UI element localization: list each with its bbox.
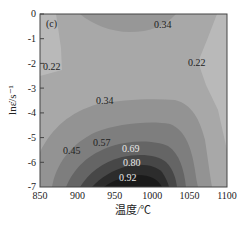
x-tick-label: 900 bbox=[70, 190, 85, 201]
x-axis-label: 温度/℃ bbox=[115, 203, 151, 216]
contour-label: 0.92 bbox=[119, 172, 137, 183]
contour-label: 0.34 bbox=[154, 19, 172, 30]
contour-label: 0.57 bbox=[93, 137, 111, 148]
y-tick-label: -5 bbox=[28, 132, 36, 143]
contour-chart: 0 -1 -2 -3 -4 -5 -6 -7 850 900 950 1000 … bbox=[0, 0, 251, 227]
contour-label: 0.69 bbox=[122, 143, 140, 154]
x-tick-label: 950 bbox=[107, 190, 122, 201]
y-tick-label: -2 bbox=[28, 58, 36, 69]
contour-label: 0.34 bbox=[96, 95, 114, 106]
y-tick-label: -3 bbox=[28, 83, 36, 94]
y-tick-label: 0 bbox=[31, 8, 36, 19]
y-axis-label: lnε̇/s⁻¹ bbox=[6, 85, 18, 115]
contour-label: 0.22 bbox=[43, 61, 61, 72]
y-tick-label: -6 bbox=[28, 157, 36, 168]
x-tick-label: 1100 bbox=[217, 190, 237, 201]
contour-label: 0.22 bbox=[188, 57, 206, 68]
contour-label: 0.45 bbox=[63, 145, 81, 156]
y-tick-label: -4 bbox=[28, 107, 36, 118]
contour-label: 0.80 bbox=[123, 157, 141, 168]
x-tick-label: 850 bbox=[33, 190, 48, 201]
x-axis: 850 900 950 1000 1050 1100 bbox=[33, 190, 237, 201]
x-tick-label: 1000 bbox=[142, 190, 162, 201]
x-tick-label: 1050 bbox=[180, 190, 200, 201]
panel-label: (c) bbox=[46, 18, 57, 30]
y-tick-label: -1 bbox=[28, 33, 36, 44]
